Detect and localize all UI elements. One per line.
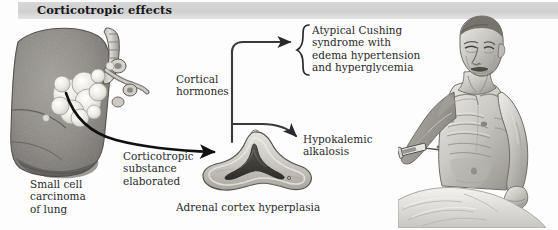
arrow-lung-to-adrenal [66,93,214,152]
cushing-brace [297,25,309,75]
label-small-cell-carcinoma-of-lung: Small cell carcinoma of lung [30,178,86,215]
label-cortical-hormones: Cortical hormones [176,73,229,98]
label-atypical-cushing-syndrome: Atypical Cushing syndrome with edema hyp… [312,24,436,74]
arrow-adrenal-to-alkalosis [232,124,296,136]
label-corticotropic-substance-elaborated: Corticotropic substance elaborated [123,150,194,187]
corticotropic-effects-figure: Corticotropic effects [0,0,558,230]
label-adrenal-cortex-hyperplasia: Adrenal cortex hyperplasia [176,201,320,213]
label-hypokalemic-alkalosis: Hypokalemic alkalosis [303,133,373,158]
